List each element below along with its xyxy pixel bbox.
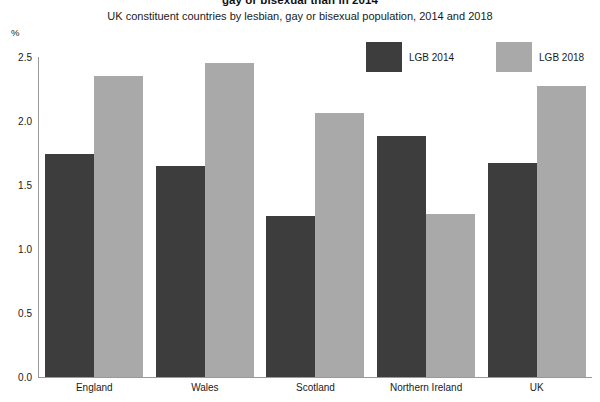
plot-area [38,57,592,377]
bar[interactable] [537,86,586,377]
y-axis-tick-labels: 0.00.51.01.52.02.5 [0,57,32,377]
bar[interactable] [377,136,426,377]
bar[interactable] [426,214,475,377]
bar[interactable] [266,216,315,377]
bar-group [371,57,482,377]
chart-title: gay or bisexual than in 2014 [0,0,600,7]
bar-group [150,57,261,377]
bar[interactable] [205,63,254,377]
x-axis-tick-labels: EnglandWalesScotlandNorthern IrelandUK [39,382,592,393]
bar-group [260,57,371,377]
bar-groups [39,57,592,377]
x-axis-tick-label: England [39,382,150,393]
chart-figure: gay or bisexual than in 2014 UK constitu… [0,0,600,402]
y-axis-tick-label: 2.5 [2,52,32,63]
x-axis-tick-label: Northern Ireland [371,382,482,393]
x-axis-tick-label: Wales [150,382,261,393]
x-axis-tick-label: UK [481,382,592,393]
bar[interactable] [94,76,143,377]
x-axis-line [38,377,592,378]
bar-group [39,57,150,377]
y-axis-tick-label: 0.5 [2,308,32,319]
bar[interactable] [156,166,205,377]
y-axis-tick-label: 1.5 [2,180,32,191]
chart-title-block: gay or bisexual than in 2014 UK constitu… [0,0,600,23]
y-axis-tick-label: 2.0 [2,116,32,127]
bar[interactable] [488,163,537,377]
bar[interactable] [45,154,94,377]
x-axis-tick-label: Scotland [260,382,371,393]
chart-subtitle: UK constituent countries by lesbian, gay… [0,9,600,23]
bar-group [481,57,592,377]
y-axis-unit-label: % [11,27,19,38]
y-axis-tick-label: 0.0 [2,372,32,383]
bar[interactable] [315,113,364,377]
y-axis-tick-label: 1.0 [2,244,32,255]
